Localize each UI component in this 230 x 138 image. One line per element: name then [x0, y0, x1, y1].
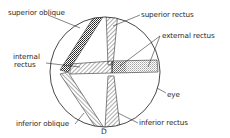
label-external-rectus: external rectus	[162, 32, 215, 39]
label-inferior-rectus: inferior rectus	[139, 119, 188, 126]
label-superior-oblique: superior oblique	[8, 9, 65, 16]
label-inferior-oblique: inferior oblique	[16, 120, 69, 127]
diagram-graphic	[0, 0, 230, 138]
label-superior-rectus: superior rectus	[141, 11, 194, 18]
eye-muscle-diagram: superior oblique superior rectus externa…	[0, 0, 230, 138]
label-eye: eye	[167, 91, 180, 98]
label-internal-rectus-2: rectus	[14, 61, 36, 68]
label-point-d: D	[101, 128, 107, 136]
